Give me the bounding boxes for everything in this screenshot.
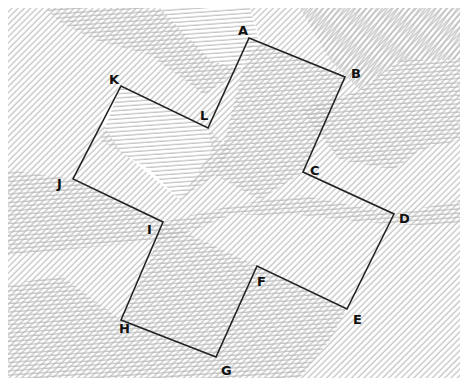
vertex-label-g: G — [221, 363, 232, 378]
vertex-label-h: H — [119, 321, 130, 336]
vertex-label-b: B — [351, 66, 361, 81]
vertex-label-k: K — [109, 72, 120, 87]
vertex-label-i: I — [147, 222, 152, 237]
diagram-canvas: A B C D E F G H I J K L — [0, 0, 469, 386]
vertex-label-d: D — [399, 211, 410, 226]
vertex-label-a: A — [238, 23, 248, 38]
vertex-label-j: J — [56, 176, 62, 191]
vertex-label-e: E — [353, 312, 362, 327]
hatched-background — [8, 8, 460, 378]
vertex-label-f: F — [257, 274, 266, 289]
vertex-label-l: L — [200, 108, 208, 123]
vertex-label-c: C — [310, 163, 320, 178]
